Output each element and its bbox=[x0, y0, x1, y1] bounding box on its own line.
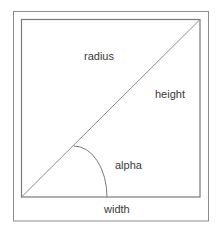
alpha-angle-arc bbox=[74, 146, 107, 197]
outer-frame bbox=[14, 12, 209, 222]
alpha-label: alpha bbox=[115, 159, 142, 171]
height-label: height bbox=[155, 88, 185, 100]
diagonal-radius-line bbox=[22, 20, 201, 198]
width-label: width bbox=[104, 203, 130, 215]
diagram-canvas bbox=[0, 0, 217, 234]
radius-label: radius bbox=[84, 50, 114, 62]
